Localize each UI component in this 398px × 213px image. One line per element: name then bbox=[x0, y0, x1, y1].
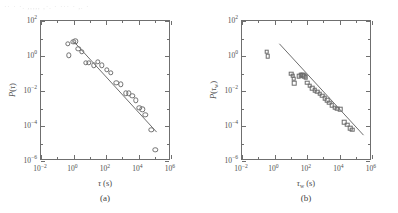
x-tick-label: 104 bbox=[132, 164, 142, 173]
y-tick-label: 10−2 bbox=[16, 86, 37, 95]
plot-inner-b bbox=[242, 21, 370, 159]
y-tick bbox=[165, 161, 169, 162]
x-tick-label: 100 bbox=[268, 164, 278, 173]
x-tick-label: 106 bbox=[366, 164, 376, 173]
panel-b: 10−210010210410610210010−210−410−6τw (s)… bbox=[199, 8, 398, 213]
data-point-marker bbox=[292, 81, 297, 86]
y-tick-label: 10−4 bbox=[16, 121, 37, 130]
y-tick-label: 10−2 bbox=[217, 86, 238, 95]
x-axis-title: τw (s) bbox=[297, 178, 315, 188]
data-point-marker bbox=[304, 75, 309, 80]
panel-caption: (a) bbox=[100, 193, 110, 203]
x-tick-label: 106 bbox=[165, 164, 175, 173]
x-tick bbox=[171, 155, 172, 159]
fit-line bbox=[41, 21, 171, 161]
y-tick-label: 102 bbox=[217, 16, 238, 25]
y-tick bbox=[366, 161, 370, 162]
x-tick-label: 102 bbox=[301, 164, 311, 173]
x-tick-label: 102 bbox=[100, 164, 110, 173]
data-point-marker bbox=[338, 107, 343, 112]
x-axis-title: τ (s) bbox=[98, 178, 112, 188]
x-tick bbox=[372, 155, 373, 159]
y-tick-label: 100 bbox=[16, 51, 37, 60]
x-tick-label: 10−2 bbox=[234, 164, 247, 173]
x-tick-label: 10−2 bbox=[33, 164, 46, 173]
y-axis-title: P(τw) bbox=[208, 70, 218, 110]
x-tick-label: 100 bbox=[67, 164, 77, 173]
y-axis-title: P(τ) bbox=[7, 70, 17, 110]
x-tick bbox=[171, 21, 172, 25]
panel-caption: (b) bbox=[301, 193, 312, 203]
y-tick-label: 10−6 bbox=[16, 156, 37, 165]
plot-area-b bbox=[241, 20, 371, 160]
plot-area-a bbox=[40, 20, 170, 160]
y-tick-label: 100 bbox=[217, 51, 238, 60]
panel-a: 10−210010210410610210010−210−410−6τ (s)P… bbox=[0, 8, 199, 213]
plot-inner-a bbox=[41, 21, 169, 159]
y-tick-label: 10−6 bbox=[217, 156, 238, 165]
figure-container: 10−210010210410610210010−210−410−6τ (s)P… bbox=[0, 8, 398, 213]
x-tick-label: 104 bbox=[333, 164, 343, 173]
y-tick-label: 102 bbox=[16, 16, 37, 25]
x-tick bbox=[372, 21, 373, 25]
fit-line bbox=[242, 21, 372, 161]
data-point-marker bbox=[265, 54, 270, 59]
data-point-marker bbox=[350, 128, 355, 133]
y-tick-label: 10−4 bbox=[217, 121, 238, 130]
